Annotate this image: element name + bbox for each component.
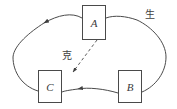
- node-b[interactable]: B: [118, 70, 142, 103]
- ke-dashed-link: [73, 40, 97, 72]
- node-a[interactable]: A: [82, 5, 106, 40]
- cycle-diagram: A C B 生 克: [0, 0, 177, 109]
- cycle-arc-lower: [62, 88, 118, 93]
- edge-label-ke: 克: [62, 51, 72, 61]
- node-c[interactable]: C: [38, 70, 62, 103]
- edge-label-sheng: 生: [145, 10, 155, 20]
